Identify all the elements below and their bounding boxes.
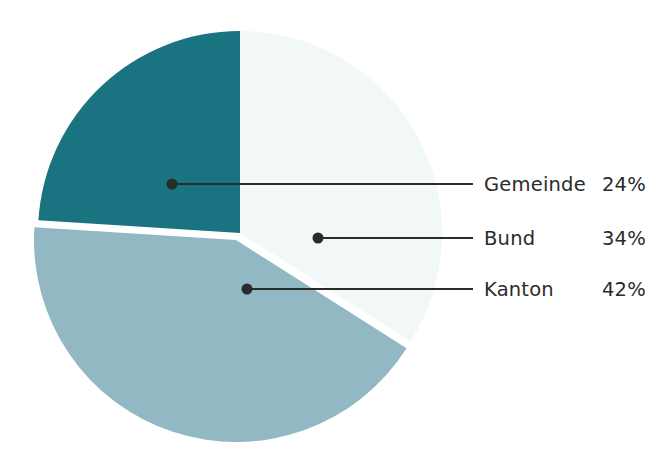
callout-dot-kanton (242, 284, 253, 295)
legend-row-kanton[interactable]: Kanton 42% (484, 277, 554, 301)
callout-dot-bund (313, 233, 324, 244)
pie-chart-figure: Gemeinde 24% Bund 34% Kanton 42% (0, 0, 665, 467)
legend-label-gemeinde: Gemeinde (484, 173, 586, 196)
legend-row-bund[interactable]: Bund 34% (484, 226, 535, 250)
legend-value-bund: 34% (602, 227, 646, 250)
legend-label-kanton: Kanton (484, 278, 554, 301)
callout-dot-gemeinde (167, 179, 178, 190)
pie-slices-group (34, 31, 442, 442)
legend-value-gemeinde: 24% (602, 173, 646, 196)
legend-value-kanton: 42% (602, 278, 646, 301)
legend-row-gemeinde[interactable]: Gemeinde 24% (484, 172, 586, 196)
legend-label-bund: Bund (484, 227, 535, 250)
pie-chart-svg (0, 0, 665, 467)
pie-slice-gemeinde[interactable] (38, 31, 240, 233)
